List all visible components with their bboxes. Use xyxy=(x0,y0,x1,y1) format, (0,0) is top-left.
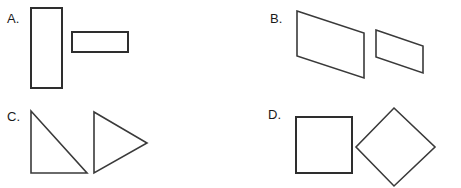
large-parallelogram xyxy=(297,11,364,78)
geometry-worksheet: A. B. C. D. xyxy=(0,0,461,188)
right-triangle xyxy=(31,111,87,173)
square xyxy=(296,117,352,173)
choice-option-c[interactable]: C. xyxy=(0,94,230,188)
wide-horizontal-rectangle xyxy=(72,32,128,52)
choice-option-b[interactable]: B. xyxy=(231,0,461,94)
shape-group-a xyxy=(0,0,230,94)
choice-option-a[interactable]: A. xyxy=(0,0,230,94)
shape-group-d xyxy=(231,94,461,188)
tall-vertical-rectangle xyxy=(31,8,62,88)
diamond xyxy=(356,108,435,186)
right-pointing-triangle xyxy=(94,112,147,173)
small-parallelogram xyxy=(376,30,423,73)
choice-option-d[interactable]: D. xyxy=(231,94,461,188)
shape-group-b xyxy=(231,0,461,94)
shape-group-c xyxy=(0,94,230,188)
